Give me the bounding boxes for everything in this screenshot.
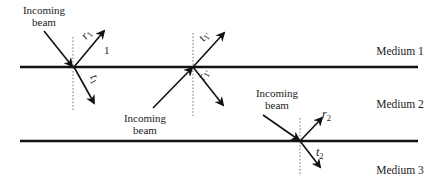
incoming-beam-2-label-line1: Incoming xyxy=(124,112,167,124)
region-number-1: 1 xyxy=(104,44,110,56)
incoming-beam-2-arrow xyxy=(153,68,192,108)
medium-1-label: Medium 1 xyxy=(376,45,424,57)
incoming-beam-3-label-line2: beam xyxy=(265,99,289,111)
incoming-beam-1-arrow xyxy=(44,31,72,66)
beam-group-1: Incoming beam r1 1 t1 xyxy=(23,4,110,110)
r2-label: r2 xyxy=(322,107,331,123)
medium-2-label: Medium 2 xyxy=(376,98,424,110)
incoming-beam-1-label-line1: Incoming xyxy=(23,4,66,16)
incoming-beam-3-arrow xyxy=(263,115,299,140)
incoming-beam-2-label-line2: beam xyxy=(133,124,157,136)
beam-group-2: t1′ r1′ Incoming beam xyxy=(124,28,224,136)
medium-3-label: Medium 3 xyxy=(376,164,424,176)
reflection-transmission-diagram: Medium 1 Medium 2 Medium 3 Incoming beam… xyxy=(0,0,438,187)
incoming-beam-1-label-line2: beam xyxy=(32,16,56,28)
t1-label: t1 xyxy=(86,72,103,86)
beam-group-3: Incoming beam r2 t2 xyxy=(256,87,331,176)
r1-label: r1 xyxy=(78,26,95,42)
reflected-beam-r2-arrow xyxy=(300,118,322,141)
t2-label: t2 xyxy=(316,145,324,161)
t1prime-label: t1′ xyxy=(195,28,213,44)
incoming-beam-3-label-line1: Incoming xyxy=(256,87,299,99)
r1prime-label: r1′ xyxy=(194,66,212,83)
